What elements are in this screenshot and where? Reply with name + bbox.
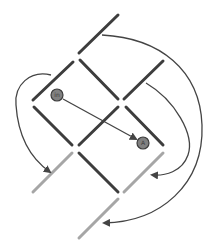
light-segment	[124, 153, 163, 192]
node-1: in	[51, 89, 63, 101]
dark-segment	[80, 60, 118, 99]
dark-segment	[79, 15, 118, 53]
node-label: in	[54, 91, 60, 98]
arrows	[16, 35, 202, 223]
light-segment	[33, 153, 72, 192]
dark-segment	[79, 153, 118, 192]
light-segment	[79, 199, 118, 238]
arrow-node1-to-node2	[63, 99, 136, 139]
dark-segments	[33, 15, 163, 192]
knot-diagram: inA	[0, 0, 215, 250]
arrow-right-inner	[146, 83, 189, 175]
light-segments	[33, 153, 163, 238]
dark-segment	[34, 107, 72, 145]
node-2: A	[137, 137, 149, 149]
dark-segment	[124, 61, 163, 99]
